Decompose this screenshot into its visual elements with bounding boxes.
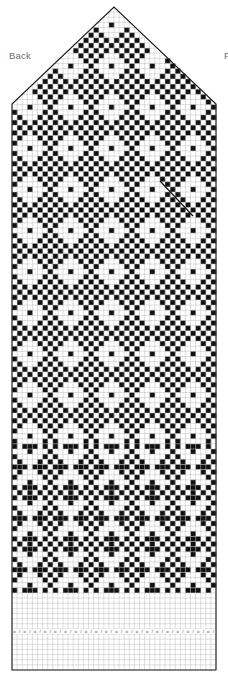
knitting-chart: Back F o/o/o/o/o/o/o/o/o/o/o/o/o/o/o/o/o… [0, 0, 228, 685]
chart-gridlines [12, 7, 216, 670]
eyelet-symbols: o/o/o/o/o/o/o/o/o/o/o/o/o/o/o/o/o/o/o/o/ [12, 629, 216, 634]
chart-grid: o/o/o/o/o/o/o/o/o/o/o/o/o/o/o/o/o/o/o/o/ [0, 0, 228, 685]
